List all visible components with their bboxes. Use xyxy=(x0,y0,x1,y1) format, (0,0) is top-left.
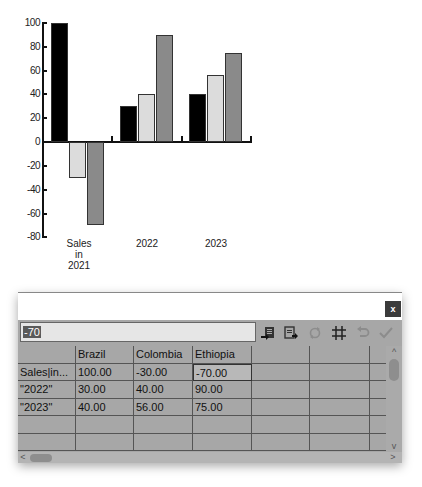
cell-value-input[interactable]: -70 xyxy=(20,322,256,342)
scroll-right-icon[interactable]: > xyxy=(388,452,398,463)
table-row: "2022"30.0040.0090.00 xyxy=(18,381,386,399)
y-tick-label: 80 xyxy=(0,42,40,52)
y-tick xyxy=(43,213,47,215)
table-row xyxy=(18,416,386,434)
x-label-line: Sales xyxy=(64,238,94,249)
y-tick-label: -60 xyxy=(0,209,40,219)
table-cell[interactable] xyxy=(252,434,310,452)
table-cell[interactable] xyxy=(76,416,134,434)
undo-icon[interactable] xyxy=(355,325,371,341)
data-table-dialog: x -70 BrazilColombiaEthiopiaSales|in...1… xyxy=(18,292,402,462)
table-cell[interactable] xyxy=(370,399,386,417)
y-tick-label: -20 xyxy=(0,161,40,171)
row-header[interactable] xyxy=(18,416,76,434)
x-category-label: 2023 xyxy=(201,238,231,249)
close-button[interactable]: x xyxy=(385,301,401,317)
column-header[interactable] xyxy=(370,346,386,364)
y-tick xyxy=(43,46,47,48)
table-row: "2023"40.0056.0075.00 xyxy=(18,399,386,417)
column-header[interactable]: Colombia xyxy=(134,346,193,364)
table-cell[interactable]: -30.00 xyxy=(134,364,193,382)
table-cell[interactable]: 40.00 xyxy=(76,399,134,417)
table-cell[interactable] xyxy=(370,434,386,452)
y-tick-label: -80 xyxy=(0,232,40,242)
table-cell[interactable] xyxy=(193,416,252,434)
y-tick-label: -40 xyxy=(0,185,40,195)
bar-colombia xyxy=(69,142,86,178)
row-header[interactable] xyxy=(18,434,76,452)
table-cell[interactable] xyxy=(134,416,193,434)
apply-check-icon[interactable] xyxy=(378,325,394,341)
vertical-scrollbar[interactable]: ^ v xyxy=(386,346,402,452)
row-header[interactable]: "2022" xyxy=(18,381,76,399)
y-tick-label: 0 xyxy=(0,137,40,147)
data-toolbar: -70 xyxy=(18,320,402,346)
table-cell[interactable] xyxy=(310,364,370,382)
column-header[interactable] xyxy=(252,346,310,364)
column-header[interactable]: Brazil xyxy=(76,346,134,364)
table-cell[interactable]: 75.00 xyxy=(193,399,252,417)
y-tick xyxy=(43,165,47,167)
grid-icon[interactable] xyxy=(331,325,347,341)
import-data-icon[interactable] xyxy=(260,325,276,341)
x-tick xyxy=(250,136,252,142)
column-header[interactable] xyxy=(18,346,76,364)
y-tick xyxy=(43,189,47,191)
table-cell[interactable]: -70.00 xyxy=(193,364,252,382)
x-category-label: 2022 xyxy=(132,238,162,249)
table-cell[interactable]: 30.00 xyxy=(76,381,134,399)
bar-chart: 100 80 60 40 20 0 -20 -40 -60 -80 Sales … xyxy=(0,0,270,282)
table-cell[interactable] xyxy=(370,364,386,382)
bar-colombia xyxy=(207,75,224,142)
table-cell[interactable]: 56.00 xyxy=(134,399,193,417)
bar-ethiopia xyxy=(156,35,173,142)
table-cell[interactable] xyxy=(76,434,134,452)
y-tick-label: 60 xyxy=(0,66,40,76)
y-tick-label: 20 xyxy=(0,113,40,123)
table-cell[interactable] xyxy=(252,381,310,399)
scroll-left-icon[interactable]: < xyxy=(18,452,28,463)
table-cell[interactable] xyxy=(310,434,370,452)
table-cell[interactable] xyxy=(252,364,310,382)
y-tick-label: 40 xyxy=(0,89,40,99)
x-label-line: in xyxy=(64,249,94,260)
scroll-down-icon[interactable]: v xyxy=(386,440,402,452)
table-cell[interactable] xyxy=(370,381,386,399)
bar-colombia xyxy=(138,94,155,142)
bar-ethiopia xyxy=(225,53,242,142)
table-row xyxy=(18,434,386,452)
y-tick xyxy=(43,93,47,95)
vertical-scroll-thumb[interactable] xyxy=(389,359,399,381)
table-cell[interactable] xyxy=(310,399,370,417)
table-cell[interactable] xyxy=(370,416,386,434)
y-tick xyxy=(43,117,47,119)
table-cell[interactable] xyxy=(193,434,252,452)
cell-value-selection[interactable]: -70 xyxy=(23,326,41,338)
y-tick xyxy=(43,70,47,72)
table-cell[interactable] xyxy=(310,381,370,399)
column-header[interactable]: Ethiopia xyxy=(193,346,252,364)
bar-ethiopia xyxy=(87,142,104,225)
scroll-up-icon[interactable]: ^ xyxy=(386,346,402,358)
row-header[interactable]: Sales|in... xyxy=(18,364,76,382)
bar-brazil xyxy=(120,106,137,142)
table-cell[interactable] xyxy=(252,416,310,434)
horizontal-scrollbar[interactable]: < > xyxy=(18,452,402,463)
bar-brazil xyxy=(51,23,68,142)
table-cell[interactable]: 40.00 xyxy=(134,381,193,399)
row-header[interactable]: "2023" xyxy=(18,399,76,417)
table-cell[interactable] xyxy=(252,399,310,417)
y-tick xyxy=(43,22,47,24)
table-cell[interactable] xyxy=(310,416,370,434)
table-cell[interactable]: 90.00 xyxy=(193,381,252,399)
y-tick-label: 100 xyxy=(0,18,40,28)
x-tick xyxy=(111,136,113,142)
x-category-label: Sales in 2021 xyxy=(64,238,94,271)
table-cell[interactable] xyxy=(134,434,193,452)
horizontal-scroll-thumb[interactable] xyxy=(30,454,52,462)
export-data-icon[interactable] xyxy=(283,325,299,341)
column-header[interactable] xyxy=(310,346,370,364)
swap-axes-icon[interactable] xyxy=(307,325,323,341)
y-axis xyxy=(42,22,44,238)
table-cell[interactable]: 100.00 xyxy=(76,364,134,382)
